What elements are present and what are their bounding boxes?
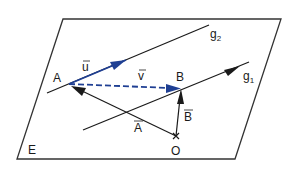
line-label-g1: g1 bbox=[243, 69, 255, 85]
line-g1-arrowhead bbox=[224, 66, 240, 76]
vector-v bbox=[69, 84, 170, 88]
line-g1 bbox=[83, 62, 249, 130]
vector-a bbox=[80, 90, 176, 136]
plane-label-e: E bbox=[28, 143, 36, 157]
vector-label-u: u bbox=[82, 60, 89, 74]
vector-label-v: v bbox=[138, 69, 144, 83]
point-label-b: B bbox=[176, 70, 184, 84]
point-label-o: O bbox=[171, 144, 180, 158]
vector-geometry-diagram: A B O E u v A B g2 g1 bbox=[0, 0, 298, 172]
vector-u-arrowhead bbox=[110, 60, 126, 70]
vector-label-a: A bbox=[134, 121, 142, 135]
vector-a-arrowhead bbox=[71, 86, 86, 96]
vector-label-b: B bbox=[184, 110, 192, 124]
line-label-g2: g2 bbox=[210, 27, 222, 43]
point-label-a: A bbox=[53, 71, 61, 85]
vector-v-arrowhead bbox=[166, 84, 181, 93]
